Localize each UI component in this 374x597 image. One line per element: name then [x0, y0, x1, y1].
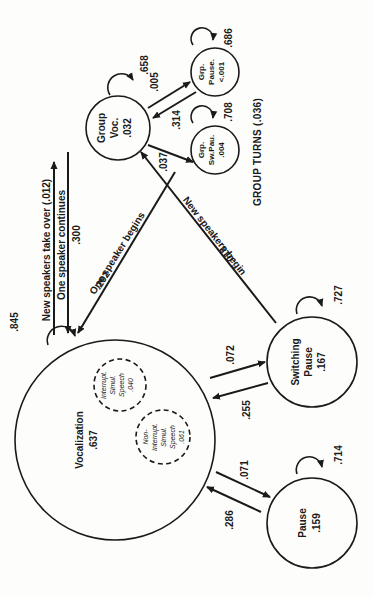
svg-text:Voc.: Voc.: [109, 118, 120, 139]
svg-text:Non-: Non-: [142, 429, 149, 445]
group-voc-node: Group Voc. .032: [86, 96, 150, 160]
non-interrupt-simul-speech-node: Non- Interrupt. Simul. Speech .061: [136, 410, 190, 464]
interrupt-simul-speech-node: Interrupt. Simul. Speech .040: [94, 359, 146, 411]
svg-text:.071: .071: [239, 460, 250, 480]
svg-text:.040: .040: [127, 378, 134, 392]
switching-pause-node: Switching Pause .167: [267, 317, 357, 407]
svg-text:.714: .714: [333, 445, 344, 465]
svg-text:.708: .708: [223, 102, 234, 122]
group-turns-title: GROUP TURNS (.036): [252, 98, 263, 206]
edge-group-to-grp-pause: .005: [148, 72, 190, 108]
svg-text:Pause: Pause: [297, 508, 308, 538]
svg-text:.005: .005: [149, 72, 160, 92]
svg-text:Interrupt.: Interrupt.: [100, 371, 108, 399]
svg-text:.037: .037: [158, 152, 169, 172]
pause-self-loop: .714: [296, 445, 344, 474]
edge-one-speaker-continues: One speaker continues .300: [56, 152, 82, 333]
svg-text:.300: .300: [71, 225, 82, 245]
grp-pause-node: Grp. Pause. <.001: [191, 48, 239, 96]
edge-new-speakers-take-over: New speakers take over (.012): [41, 162, 54, 335]
svg-text:Pause: Pause: [303, 347, 314, 377]
edge-switching-to-voc: .255: [213, 383, 268, 420]
svg-text:.286: .286: [224, 510, 235, 530]
svg-text:.686: .686: [223, 28, 234, 48]
svg-text:.314: .314: [171, 110, 182, 130]
svg-text:New speakers begin: New speakers begin: [181, 195, 249, 278]
svg-text:Simul.: Simul.: [160, 427, 167, 447]
pause-node: Pause .159: [267, 478, 357, 568]
svg-text:Pause.: Pause.: [207, 59, 216, 85]
vocalization-self-prob: .845: [9, 312, 20, 332]
edge-voc-to-switching: .072: [210, 345, 265, 378]
svg-text:.167: .167: [316, 352, 327, 372]
svg-text:Speech: Speech: [118, 373, 126, 397]
svg-text:.032: .032: [122, 118, 133, 138]
vocalization-label: Vocalization: [74, 411, 85, 469]
svg-text:Grp.: Grp.: [197, 142, 206, 158]
svg-text:.727: .727: [333, 285, 344, 305]
svg-text:.061: .061: [178, 430, 185, 444]
edge-voc-to-pause: .071: [216, 460, 270, 497]
vocalization-node: Vocalization .637: [15, 340, 215, 540]
svg-text:Switching: Switching: [290, 338, 301, 385]
svg-text:<.001: <.001: [217, 61, 226, 82]
svg-text:Sw.Pau.: Sw.Pau.: [207, 135, 216, 165]
svg-text:New speakers take over (.012): New speakers take over (.012): [41, 179, 52, 321]
svg-text:Group: Group: [96, 113, 107, 143]
grp-sw-pau-node: Grp. Sw.Pau. .004: [191, 126, 239, 174]
grp-pause-self-loop: .686: [191, 28, 234, 48]
state-transition-diagram: Vocalization .637 .845 Interrupt. Simul.…: [0, 0, 374, 597]
edge-pause-to-voc: .286: [207, 487, 261, 530]
svg-text:.004: .004: [217, 142, 226, 158]
svg-text:.658: .658: [139, 55, 150, 75]
svg-text:Speech: Speech: [169, 425, 177, 449]
svg-text:Simul.: Simul.: [109, 375, 116, 395]
grp-sw-pau-self-loop: .708: [191, 102, 234, 123]
edge-one-speaker-begins: One speaker begins .292: [78, 172, 175, 333]
svg-text:Grp.: Grp.: [197, 64, 206, 80]
vocalization-value: .637: [88, 430, 99, 450]
edge-grp-pause-to-group: .314: [153, 92, 196, 130]
edge-group-to-grp-sw-pau: .037: [148, 145, 193, 172]
svg-text:One speaker continues: One speaker continues: [56, 190, 67, 300]
switching-pause-self-loop: .727: [296, 285, 344, 314]
svg-text:Interrupt.: Interrupt.: [151, 423, 159, 451]
svg-text:.255: .255: [241, 400, 252, 420]
group-voc-self-loop: .658: [108, 55, 150, 95]
svg-text:.072: .072: [225, 345, 236, 365]
svg-text:.159: .159: [311, 513, 322, 533]
